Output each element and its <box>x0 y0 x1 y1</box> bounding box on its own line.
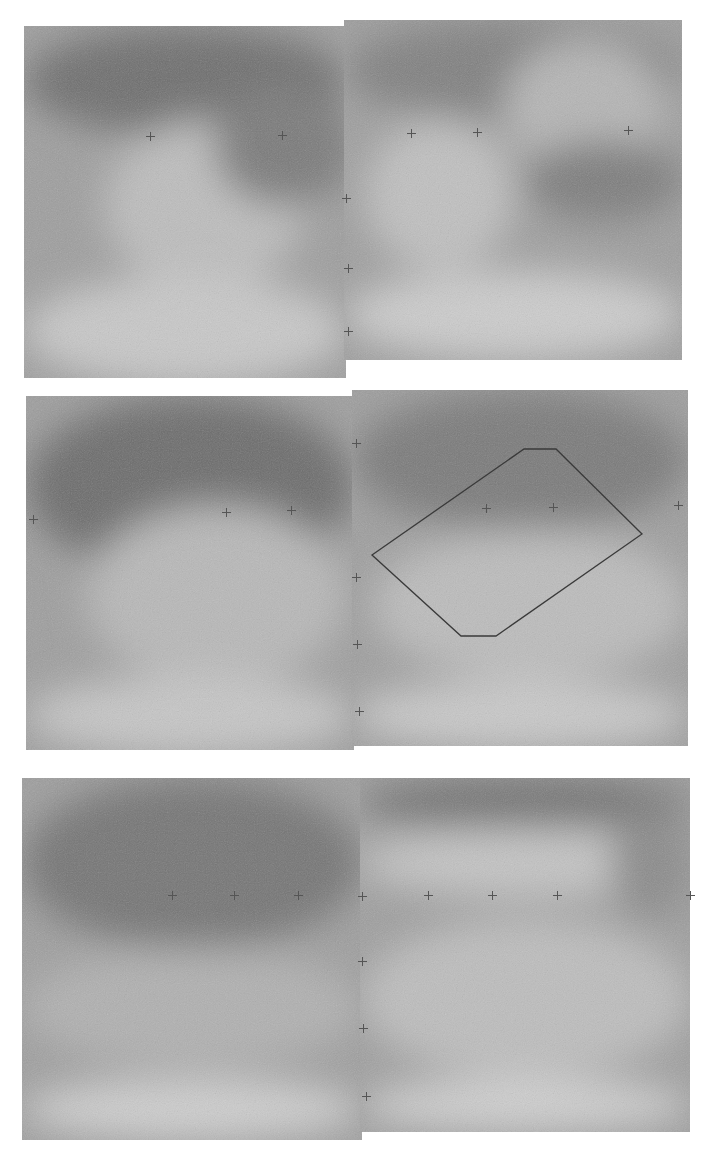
hexagon-outline <box>0 0 712 1154</box>
